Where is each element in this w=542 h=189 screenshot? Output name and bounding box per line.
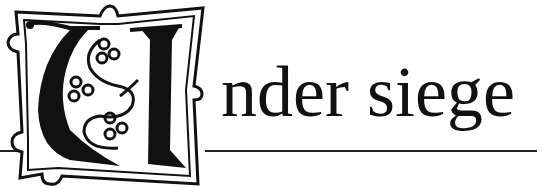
- heading-underline: [205, 150, 537, 152]
- heading-title: nder siege: [221, 52, 515, 132]
- illuminated-initial-u-icon: [0, 0, 210, 189]
